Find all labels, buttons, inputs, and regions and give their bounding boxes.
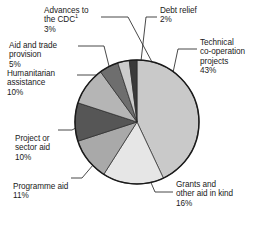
slice-label-project-or-sector-aid: Project or sector aid 10% — [15, 134, 50, 162]
label-percent: 43% — [200, 66, 245, 75]
slice-label-debt-relief: Debt relief 2% — [160, 6, 197, 25]
label-percent: 11% — [13, 191, 68, 200]
label-line-2: provision — [9, 50, 57, 59]
label-percent: 5% — [9, 60, 57, 69]
slice-label-humanitarian-assistance: Humanitarian assistance 10% — [7, 69, 55, 97]
label-percent: 2% — [160, 15, 197, 24]
label-line-1: Advances to — [44, 6, 89, 15]
slice-label-grants-and-other-aid-in-kind: Grants and other aid in kind 16% — [176, 180, 233, 208]
label-line-1: Grants and — [176, 180, 233, 189]
label-line-2: assistance — [7, 78, 55, 87]
slice-label-technical-co-operation-projects: Technical co-operation projects 43% — [200, 38, 245, 76]
slice-label-advances-to-the-cdc: Advances to the CDC1 3% — [44, 6, 89, 34]
label-text: the CDC — [44, 15, 75, 24]
label-line-1: Humanitarian — [7, 69, 55, 78]
pie-chart-figure: Advances to the CDC1 3% Debt relief 2% T… — [0, 0, 271, 226]
label-line-2: other aid in kind — [176, 189, 233, 198]
label-percent: 3% — [44, 25, 89, 34]
label-line-3: projects — [200, 57, 245, 66]
label-line-1: Programme aid — [13, 182, 68, 191]
leader-line-advances — [101, 17, 152, 62]
slice-label-programme-aid: Programme aid 11% — [13, 182, 68, 201]
label-line-1: Technical — [200, 38, 245, 47]
footnote-marker-icon: 1 — [75, 14, 78, 20]
label-line-1: Aid and trade — [9, 41, 57, 50]
label-line-2: sector aid — [15, 143, 50, 152]
label-line-2: the CDC1 — [44, 15, 89, 24]
leader-line-debt-relief — [141, 17, 157, 61]
slice-label-aid-and-trade-provision: Aid and trade provision 5% — [9, 41, 57, 69]
label-percent: 16% — [176, 199, 233, 208]
label-line-1: Project or — [15, 134, 50, 143]
label-line-2: co-operation — [200, 47, 245, 56]
label-percent: 10% — [15, 153, 50, 162]
label-line-1: Debt relief — [160, 6, 197, 15]
label-percent: 10% — [7, 88, 55, 97]
